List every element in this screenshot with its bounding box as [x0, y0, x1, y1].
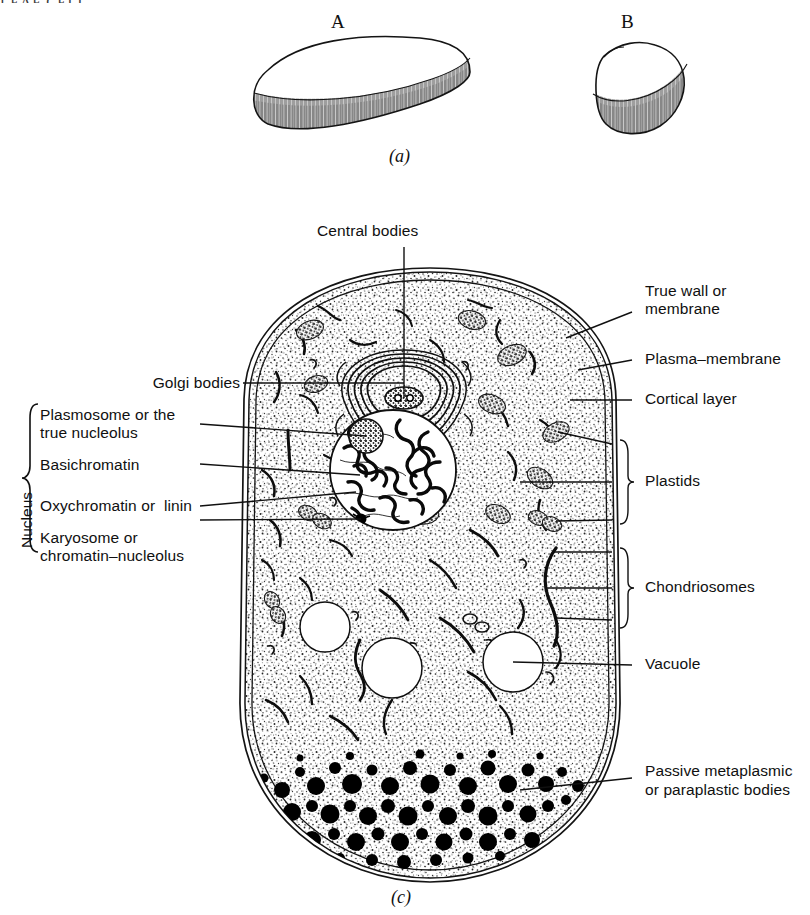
label-passive-line1: Passive metaplasmic: [645, 762, 792, 781]
label-plasma-membrane: Plasma–membrane: [645, 350, 781, 369]
label-oxychromatin: Oxychromatin or linin: [40, 497, 192, 516]
vacuole-middle: [362, 638, 422, 698]
nucleus: [330, 410, 456, 530]
specimen-a-drawing: [240, 30, 490, 150]
chondriosomes-brace: [620, 548, 634, 628]
vacuole-left: [300, 602, 350, 652]
label-plasmosome-line2: true nucleolus: [40, 424, 138, 443]
label-nucleus-group: Nucleus: [18, 492, 36, 548]
label-golgi-bodies: Golgi bodies: [98, 374, 240, 393]
label-true-wall-line1: True wall or: [645, 282, 727, 301]
specimen-label-a: A: [331, 11, 345, 33]
label-vacuole: Vacuole: [645, 655, 701, 674]
cropped-header-text: LEAF CELL: [0, 0, 88, 3]
panel-c-caption: (c): [391, 887, 411, 908]
label-chondriosomes: Chondriosomes: [645, 578, 755, 597]
label-cortical-layer: Cortical layer: [645, 390, 737, 409]
specimen-label-b: B: [621, 11, 634, 33]
label-plastids: Plastids: [645, 472, 700, 491]
label-passive-line2: or paraplastic bodies: [645, 781, 790, 800]
label-karyosome-line1: Karyosome or: [40, 529, 138, 548]
label-basichromatin: Basichromatin: [40, 456, 140, 475]
panel-a-caption: (a): [389, 146, 410, 167]
figure-plate: LEAF CELL A B (a) (c) Central bodies Gol…: [0, 0, 810, 915]
specimen-b-drawing: [585, 35, 700, 150]
label-central-bodies: Central bodies: [317, 222, 418, 241]
plastids-brace: [620, 440, 634, 524]
label-plasmosome-line1: Plasmosome or the: [40, 406, 175, 425]
label-true-wall-line2: membrane: [645, 300, 720, 319]
label-karyosome-line2: chromatin–nucleolus: [40, 547, 184, 566]
